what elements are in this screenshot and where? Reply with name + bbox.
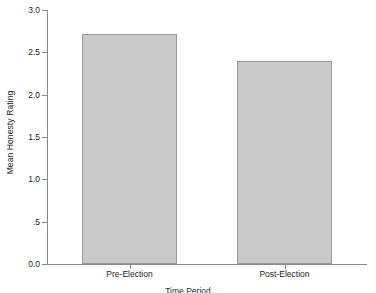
y-tick-mark: [42, 179, 47, 180]
x-axis-line: [47, 264, 367, 265]
y-tick-label: 1.5: [4, 132, 40, 142]
x-axis-title: Time Period: [0, 286, 376, 293]
y-tick-mark: [42, 264, 47, 265]
y-tick-mark: [42, 222, 47, 223]
bar-pre-election: [82, 34, 177, 264]
y-tick-mark: [42, 52, 47, 53]
y-tick-label: 3.0: [4, 5, 40, 15]
y-tick-label: 2.0: [4, 90, 40, 100]
y-tick-mark: [42, 137, 47, 138]
x-category-label: Pre-Election: [106, 269, 152, 279]
bar-post-election: [237, 61, 332, 264]
y-tick-label: .5: [4, 217, 40, 227]
y-tick-mark: [42, 10, 47, 11]
y-axis-line: [47, 10, 48, 265]
y-tick-label: 2.5: [4, 47, 40, 57]
y-tick-mark: [42, 95, 47, 96]
bar-chart: Mean Honesty Rating 0.0.51.01.52.02.53.0…: [0, 0, 376, 293]
x-category-label: Post-Election: [259, 269, 309, 279]
y-tick-label: 0.0: [4, 259, 40, 269]
y-tick-label: 1.0: [4, 174, 40, 184]
